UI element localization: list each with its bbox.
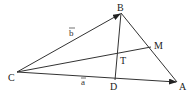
triangle-diagram: B C A M D T b a [0,0,192,99]
label-t: T [120,55,126,66]
label-m: M [154,40,163,51]
segment-bd [115,13,121,80]
label-a: A [179,81,187,92]
label-vector-b: b [69,28,74,38]
label-c: C [8,72,15,83]
label-b: B [117,2,124,13]
label-d: D [110,81,117,92]
label-vector-a: a [81,77,85,87]
vector-a-line [17,72,176,82]
segment-cm [17,47,151,72]
vector-b-line [17,14,120,72]
